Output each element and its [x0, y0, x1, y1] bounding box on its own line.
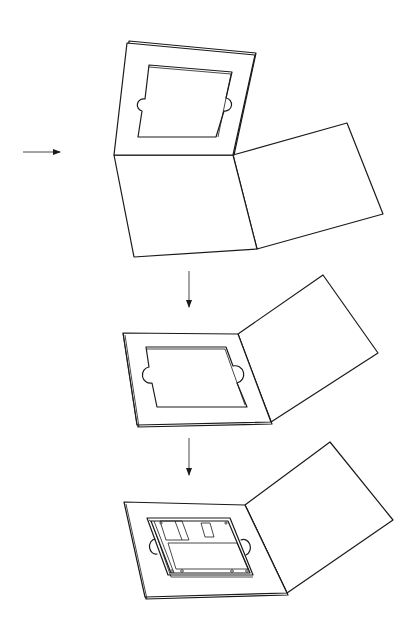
disk-hole: [231, 570, 234, 573]
disk-hole: [181, 570, 184, 573]
disk-hole: [246, 570, 249, 573]
frame-flap: [114, 43, 255, 155]
step-2-frame-flat: [123, 271, 378, 427]
disk-hole: [225, 522, 227, 524]
step-1-open-folder: [23, 41, 383, 257]
disk-hole: [171, 570, 174, 573]
diagram-canvas: [0, 0, 416, 629]
step-3-disk-inserted: [124, 438, 393, 599]
disk-hole: [160, 522, 162, 524]
base-panel: [114, 155, 257, 257]
right-panel: [233, 123, 383, 249]
